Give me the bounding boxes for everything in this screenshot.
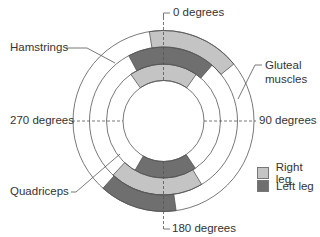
right-leg-swatch-icon — [257, 167, 269, 179]
label-0-degrees: 0 degrees — [173, 6, 224, 19]
left-leg-swatch-icon — [257, 180, 269, 192]
label-90-degrees: 90 degrees — [259, 114, 317, 127]
ring-circle-0 — [123, 81, 204, 162]
leader-0-deg — [164, 13, 171, 17]
legend-item-left-leg: Left leg — [257, 180, 314, 192]
label-gluteal-line2: muscles — [265, 73, 307, 86]
label-hamstrings: Hamstrings — [10, 41, 68, 54]
label-quadriceps: Quadriceps — [10, 185, 69, 198]
label-gluteal-line1: Gluteal — [265, 59, 301, 72]
label-270-degrees: 270 degrees — [10, 114, 74, 127]
ring-circle-1 — [107, 64, 221, 178]
leader-180-deg — [164, 226, 171, 229]
label-180-degrees: 180 degrees — [172, 222, 236, 235]
legend-label: Left leg — [276, 180, 314, 192]
